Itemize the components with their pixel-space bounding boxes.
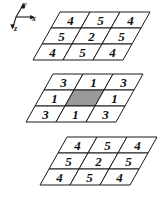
grid-cell-value: 2 [94, 154, 102, 169]
slice-bottom: 454525454 [40, 137, 164, 191]
grid-cell-value: 4 [115, 170, 123, 185]
grid-cell-value: 1 [51, 91, 58, 106]
grid-cell-value: 2 [87, 29, 95, 44]
axis-label-z: z [14, 25, 17, 33]
grid-cell-value: 3 [101, 107, 109, 122]
axis-label-y: y [23, 1, 27, 9]
diagram-canvas: y x z 454525454 31311313 454525454 [0, 0, 164, 201]
bottom-slice-grid: 454525454 [40, 137, 164, 191]
grid-cell-value: 3 [119, 75, 127, 90]
grid-cell-value: 4 [55, 170, 63, 185]
grid-cell-value: 4 [133, 138, 141, 153]
grid-cell-value: 5 [104, 138, 111, 153]
top-slice-grid: 454525454 [33, 12, 157, 66]
grid-cell-value: 5 [86, 170, 93, 185]
slice-top: 454525454 [33, 12, 157, 66]
grid-cell-value: 4 [73, 138, 81, 153]
grid-cell-value: 5 [125, 154, 132, 169]
grid-cell-value: 1 [111, 91, 118, 106]
slice-middle: 31311313 [26, 74, 150, 128]
grid-cell-value: 4 [126, 13, 134, 28]
middle-slice-grid: 31311313 [26, 74, 150, 128]
grid-cell-value: 3 [41, 107, 49, 122]
grid-cell-value: 5 [65, 154, 72, 169]
grid-cell-value: 1 [90, 75, 97, 90]
grid-cell-value: 5 [58, 29, 65, 44]
grid-cell-value: 4 [108, 45, 116, 60]
grid-cell-value: 5 [79, 45, 86, 60]
grid-cell-value: 4 [48, 45, 56, 60]
grid-cell-value: 4 [66, 13, 74, 28]
grid-cell-value: 1 [72, 107, 79, 122]
grid-cell-value: 5 [118, 29, 125, 44]
grid-cell-value: 5 [97, 13, 104, 28]
grid-cell-value: 3 [59, 75, 67, 90]
